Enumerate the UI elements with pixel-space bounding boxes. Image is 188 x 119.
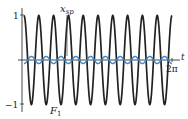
y-label-bottom: −1 bbox=[5, 100, 18, 110]
xsp-label: xsp bbox=[60, 3, 74, 16]
x-tick-label-2pi: 2π bbox=[166, 64, 178, 74]
y-label-top: 1 bbox=[13, 11, 19, 21]
figure: 1 −1 t 2π xsp F1 bbox=[0, 0, 188, 119]
t-axis-label: t bbox=[181, 52, 185, 62]
plot-area: 1 −1 t 2π xsp F1 bbox=[0, 0, 188, 119]
f1-label: F1 bbox=[49, 105, 61, 118]
